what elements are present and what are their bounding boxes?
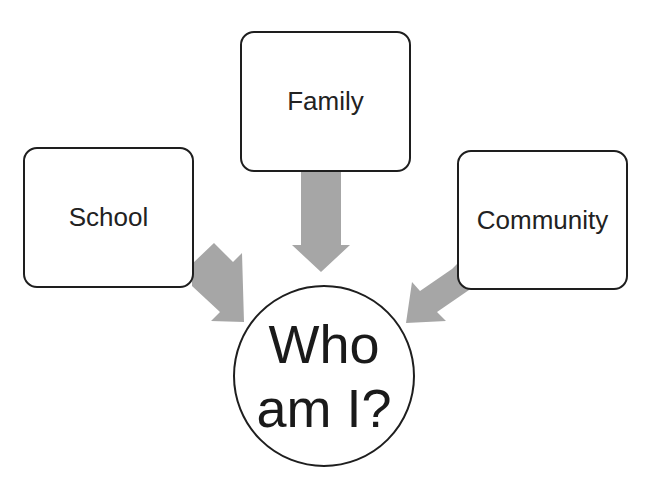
node-family-label: Family: [287, 86, 364, 117]
node-community-label: Community: [477, 205, 608, 236]
node-school: School: [23, 147, 194, 288]
node-family: Family: [240, 31, 411, 172]
node-community: Community: [457, 150, 628, 290]
center-label-line2: am I?: [256, 376, 391, 440]
center-label-line1: Who: [268, 312, 379, 376]
arrow-school-to-center: [192, 243, 244, 322]
arrow-family-to-center: [292, 171, 350, 272]
node-school-label: School: [69, 202, 149, 233]
node-center-who-am-i: Who am I?: [233, 285, 415, 467]
diagram-canvas: Family School Community Who am I?: [0, 0, 650, 492]
